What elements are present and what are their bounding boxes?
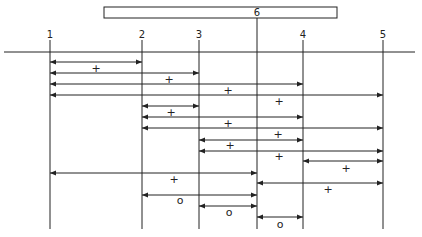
plus-mark: +	[273, 128, 282, 141]
span-arrows: ++++++++++++ooo	[50, 62, 383, 231]
plus-mark: +	[341, 162, 350, 175]
station-label-5: 5	[380, 29, 386, 40]
plus-mark: +	[225, 139, 234, 152]
plus-mark: +	[169, 173, 178, 186]
circle-mark: o	[177, 194, 184, 207]
station-label-3: 3	[196, 29, 202, 40]
plus-mark: +	[323, 183, 332, 196]
top-bar-label: 6	[254, 7, 260, 18]
top-bar	[104, 7, 337, 18]
plus-mark: +	[274, 95, 283, 108]
station-lines: 12345	[47, 18, 386, 229]
station-label-2: 2	[139, 29, 145, 40]
station-label-1: 1	[47, 29, 53, 40]
plus-mark: +	[274, 150, 283, 163]
interval-diagram: 6 12345 ++++++++++++ooo	[0, 0, 422, 237]
circle-mark: o	[226, 206, 233, 219]
circle-mark: o	[277, 218, 284, 231]
station-label-4: 4	[300, 29, 306, 40]
